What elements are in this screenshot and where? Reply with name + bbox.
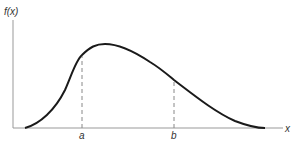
tick-label-b: b <box>171 130 177 141</box>
density-chart: f(x) x a b <box>0 0 298 145</box>
y-axis-label: f(x) <box>4 6 18 17</box>
x-axis-label: x <box>284 123 291 134</box>
tick-label-a: a <box>79 130 85 141</box>
density-curve <box>25 44 265 128</box>
